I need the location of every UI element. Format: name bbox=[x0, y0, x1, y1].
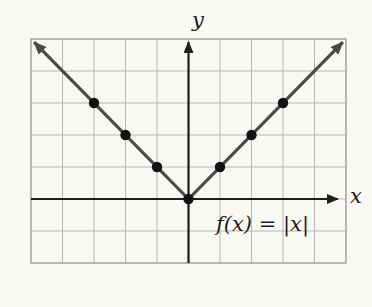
figure-page: y x f(x) = |x| bbox=[0, 0, 372, 307]
x-axis-label: x bbox=[350, 184, 362, 208]
figure-background bbox=[0, 0, 372, 307]
data-point bbox=[278, 98, 288, 108]
absolute-value-graph: y x f(x) = |x| bbox=[0, 0, 372, 307]
data-point bbox=[183, 194, 193, 204]
data-point bbox=[152, 162, 162, 172]
data-point bbox=[215, 162, 225, 172]
data-point bbox=[89, 98, 99, 108]
equation-label: f(x) = |x| bbox=[214, 212, 309, 237]
data-point bbox=[120, 130, 130, 140]
data-point bbox=[246, 130, 256, 140]
y-axis-label: y bbox=[191, 8, 205, 32]
